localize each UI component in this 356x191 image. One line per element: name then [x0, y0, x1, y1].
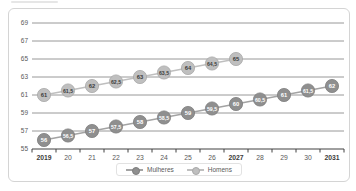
data-label: 57,5 [111, 124, 121, 130]
data-label: 61,5 [63, 88, 73, 94]
x-axis-label: 2019 [36, 154, 51, 161]
legend-item-mulheres: Mulheres [126, 166, 174, 173]
y-axis-label: 55 [21, 145, 29, 152]
x-axis-label: 22 [112, 154, 120, 161]
x-axis-label: 24 [160, 154, 168, 161]
cropped-edge-artifact [11, 1, 58, 3]
data-label: 61,5 [303, 88, 313, 94]
y-axis-label: 69 [21, 19, 29, 26]
data-label: 59,5 [207, 106, 217, 112]
data-label: 59 [185, 110, 192, 116]
data-label: 60 [233, 101, 239, 107]
x-axis-label: 26 [208, 154, 216, 161]
y-axis-label: 57 [21, 127, 29, 134]
x-axis-label: 21 [88, 154, 96, 161]
chart-legend: MulheresHomens [116, 163, 242, 176]
data-label: 62 [89, 83, 95, 89]
y-axis-label: 63 [21, 73, 29, 80]
chart-frame: 5557596163656769201920212223242526202728… [8, 8, 350, 182]
x-axis-label: 20 [64, 154, 72, 161]
x-axis-label: 23 [136, 154, 144, 161]
data-label: 62 [329, 83, 335, 89]
data-label: 61 [281, 92, 288, 98]
x-axis-label: 2027 [228, 154, 243, 161]
x-axis-label: 29 [280, 154, 288, 161]
data-label: 62,5 [111, 79, 121, 85]
x-axis-label: 2031 [324, 154, 339, 161]
data-label: 65 [233, 56, 240, 62]
legend-item-homens: Homens [187, 166, 232, 173]
y-axis-label: 59 [21, 109, 29, 116]
x-axis-label: 28 [256, 154, 264, 161]
data-label: 56 [41, 137, 48, 143]
x-axis-label: 25 [184, 154, 192, 161]
data-label: 58,5 [159, 115, 169, 121]
data-label: 64,5 [207, 61, 217, 67]
data-label: 61 [41, 92, 48, 98]
x-axis-label: 30 [304, 154, 312, 161]
data-label: 63,5 [159, 70, 169, 76]
line-chart: 5557596163656769201920212223242526202728… [9, 9, 349, 181]
data-label: 64 [185, 65, 192, 71]
y-axis-label: 67 [21, 37, 29, 44]
legend-marker-homens-icon [187, 166, 204, 173]
y-axis-label: 61 [21, 91, 29, 98]
data-label: 58 [137, 119, 144, 125]
legend-label: Homens [208, 166, 232, 173]
y-axis-label: 65 [21, 55, 29, 62]
chart-canvas: { "legend": { "position": "bottom", "ite… [0, 0, 356, 191]
data-label: 57 [89, 128, 95, 134]
data-label: 60,5 [255, 97, 265, 103]
data-label: 56,5 [63, 133, 73, 139]
legend-label: Mulheres [147, 166, 174, 173]
data-label: 63 [137, 74, 144, 80]
legend-marker-mulheres-icon [126, 166, 143, 173]
